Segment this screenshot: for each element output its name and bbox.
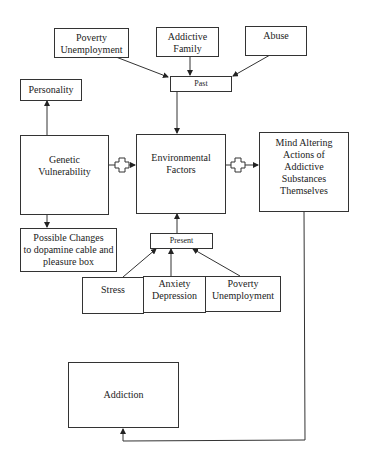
past-factor-abuse: Abuse: [245, 26, 307, 56]
possible-changes-box: Possible Changes to dopamine cable and p…: [20, 228, 117, 272]
past-label: Past: [194, 78, 207, 90]
addiction-box: Addiction: [68, 362, 179, 428]
mind-altering-label: Mind Altering Actions of Addictive Subst…: [276, 137, 333, 197]
past-factor-label: Addictive Family: [168, 31, 207, 55]
personality-box: Personality: [20, 79, 82, 101]
present-factor-stress: Stress: [82, 277, 144, 314]
present-factor-label: Poverty Unemployment: [212, 278, 274, 302]
addiction-label: Addiction: [104, 389, 144, 401]
past-factor-label: Poverty Unemployment: [60, 32, 122, 56]
environmental-factors-box: Environmental Factors: [136, 134, 226, 214]
past-factor-poverty-unemployment: Poverty Unemployment: [54, 28, 129, 58]
genetic-vulnerability-box: Genetic Vulnerability: [20, 135, 109, 215]
present-factor-label: Stress: [101, 284, 125, 296]
present-label: Present: [170, 235, 194, 247]
present-box: Present: [150, 233, 213, 249]
mind-altering-box: Mind Altering Actions of Addictive Subst…: [259, 132, 349, 212]
present-factor-anxiety-depression: Anxiety Depression: [143, 276, 206, 313]
genetic-label: Genetic Vulnerability: [38, 154, 91, 178]
past-factor-label: Abuse: [263, 30, 289, 42]
present-factor-poverty-unemployment: Poverty Unemployment: [205, 276, 281, 312]
possible-changes-label: Possible Changes to dopamine cable and p…: [23, 232, 113, 268]
present-factor-label: Anxiety Depression: [152, 278, 197, 302]
personality-label: Personality: [29, 84, 74, 96]
environmental-label: Environmental Factors: [151, 152, 210, 176]
past-factor-addictive-family: Addictive Family: [156, 27, 219, 57]
past-box: Past: [170, 76, 232, 92]
